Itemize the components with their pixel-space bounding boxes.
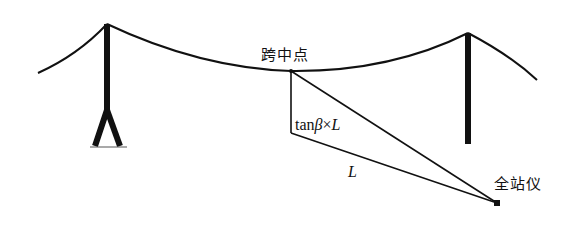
times-symbol: ×: [323, 116, 332, 133]
distance-L-text: L: [348, 163, 357, 180]
left-tower: [90, 24, 127, 147]
cable-right-overhang: [468, 33, 537, 80]
total-station-marker: [494, 200, 500, 206]
beta-symbol: β: [315, 116, 323, 133]
cable-left-overhang: [38, 24, 107, 73]
height-expression-label: tanβ×L: [295, 117, 340, 133]
cable-span-right: [291, 33, 468, 71]
tan-text: tan: [295, 116, 315, 133]
distance-label: L: [348, 164, 357, 180]
total-station-label: 全站仪: [494, 177, 542, 192]
L-symbol: L: [332, 116, 341, 133]
midspan-label: 跨中点: [261, 48, 309, 63]
